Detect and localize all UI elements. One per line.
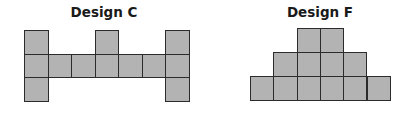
design-c-title: Design C [60, 4, 148, 20]
square-tile [273, 76, 297, 101]
square-tile [273, 52, 297, 77]
square-tile [95, 54, 120, 79]
square-tile [118, 54, 143, 79]
square-tile [320, 76, 344, 101]
square-tile [24, 30, 49, 55]
square-tile [71, 54, 96, 79]
square-tile [24, 77, 49, 102]
square-tile [320, 28, 344, 53]
square-tile [297, 52, 321, 77]
square-tile [165, 30, 190, 55]
square-tile [343, 52, 367, 77]
square-tile [165, 54, 190, 79]
square-tile [297, 28, 321, 53]
square-tile [343, 76, 367, 101]
design-f-title: Design F [275, 4, 365, 20]
square-tile [250, 76, 274, 101]
square-tile [297, 76, 321, 101]
square-tile [24, 54, 49, 79]
square-tile [320, 52, 344, 77]
square-tile [367, 76, 391, 101]
square-tile [165, 77, 190, 102]
square-tile [48, 54, 73, 79]
square-tile [142, 54, 167, 79]
square-tile [95, 30, 120, 55]
